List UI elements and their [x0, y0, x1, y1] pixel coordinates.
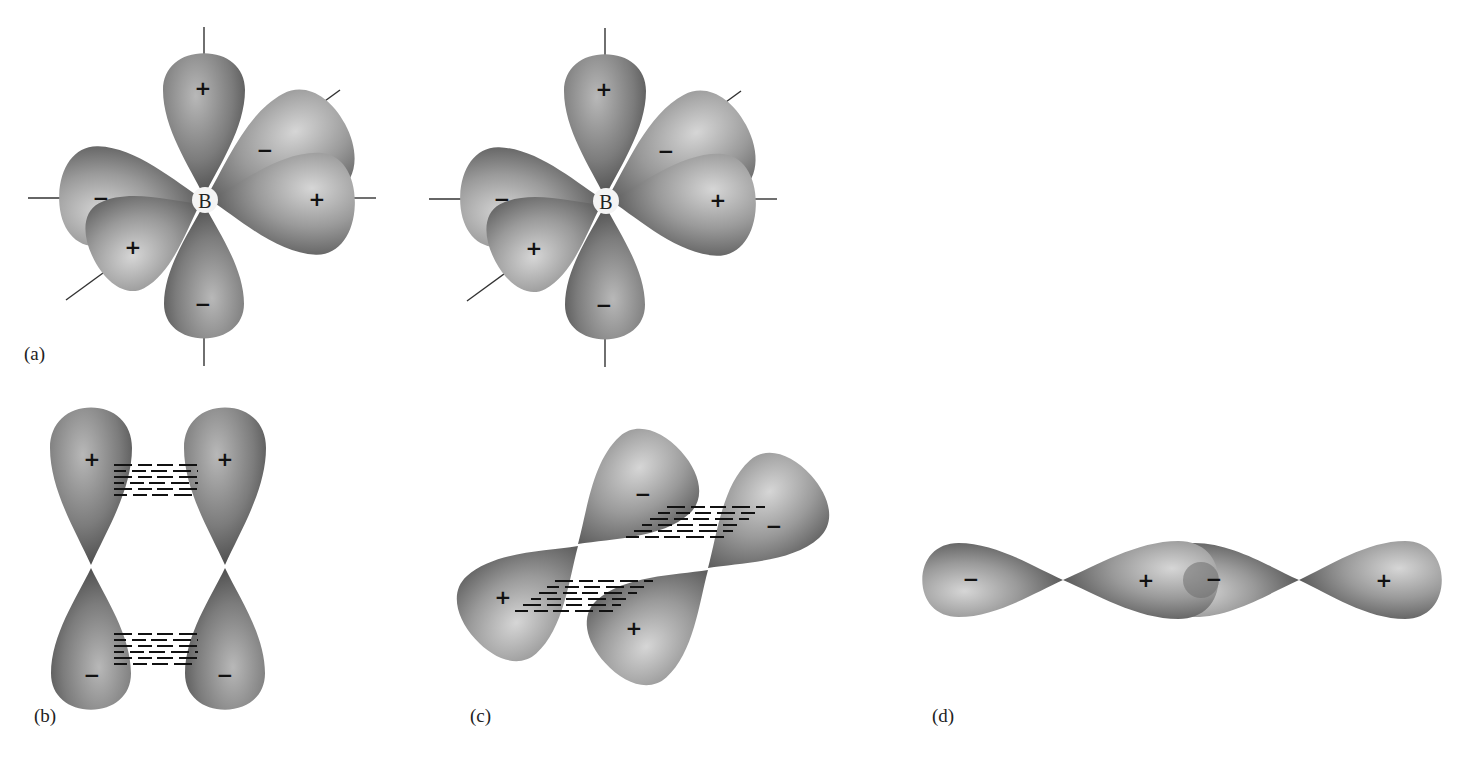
sign-upper-center: − [635, 482, 652, 506]
boron-atom-label: B [198, 190, 211, 212]
lobe-far-left [922, 543, 1063, 617]
panel-label-d: (d) [932, 705, 954, 727]
sign-far-left: − [963, 567, 980, 591]
sign-center-left: + [1138, 568, 1155, 592]
lobe-bottom-left [51, 568, 131, 710]
sign-back-right: − [658, 139, 675, 163]
sign-left: − [93, 186, 110, 210]
sign-bottom: − [596, 293, 613, 317]
boron-atom-label: B [599, 191, 612, 213]
sign-top-left: + [84, 447, 101, 471]
sign-front-left: + [526, 236, 543, 260]
panel-label-b: (b) [34, 705, 56, 727]
sign-lower-left: + [495, 585, 512, 609]
sign-top: + [596, 77, 613, 101]
panel-a-structure-2: B + − + − − + [429, 28, 777, 367]
sign-left: − [494, 187, 511, 211]
lobe-bottom-right [185, 568, 265, 710]
sign-bottom-left: − [84, 663, 101, 687]
sign-far-right: + [1376, 568, 1393, 592]
sign-right: + [309, 187, 326, 211]
sign-center-right: − [1206, 567, 1223, 591]
sign-bottom: − [195, 292, 212, 316]
panel-a-structure-1: B + − + − − + [28, 27, 376, 366]
lobe-top-left [50, 408, 132, 566]
sign-top: + [195, 76, 212, 100]
panel-c: − − + + (c) [440, 413, 846, 727]
orbital-figure: B + − + − − + B [0, 0, 1471, 768]
panel-d: − + − + (d) [922, 541, 1442, 727]
sign-front-left: + [125, 235, 142, 259]
sign-upper-right: − [766, 514, 783, 538]
panel-label-c: (c) [470, 705, 491, 727]
sign-top-right: + [217, 447, 234, 471]
panel-label-a: (a) [24, 343, 45, 365]
sign-lower-center: + [626, 616, 643, 640]
panel-b: + + − − (b) [34, 408, 266, 728]
sign-right: + [710, 188, 727, 212]
sign-back-right: − [257, 138, 274, 162]
lobe-top-right [184, 408, 266, 566]
sign-bottom-right: − [217, 663, 234, 687]
lobe-far-right [1299, 541, 1442, 619]
